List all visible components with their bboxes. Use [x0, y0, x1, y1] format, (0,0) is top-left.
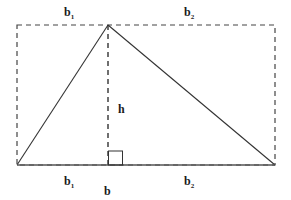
label-bottom-b1: b1 — [64, 174, 75, 190]
triangle-left-side — [17, 25, 108, 165]
triangle-area-diagram: b1 b2 h b1 b b2 — [0, 0, 291, 200]
label-bottom-b2: b2 — [184, 174, 195, 190]
triangle-right-side — [108, 25, 275, 165]
label-top-b2: b2 — [184, 5, 195, 21]
label-top-b1: b1 — [64, 5, 75, 21]
label-height: h — [118, 102, 125, 116]
label-base-b: b — [104, 184, 111, 198]
right-angle-marker — [109, 151, 123, 165]
dashed-bounding-rectangle — [17, 25, 275, 165]
